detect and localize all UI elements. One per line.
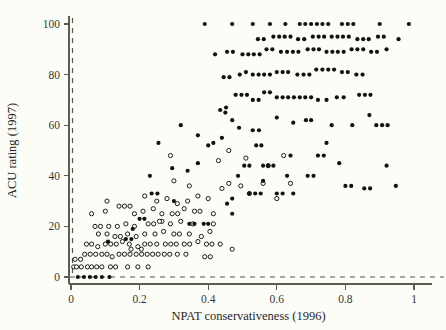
data-point-open [244,156,248,160]
data-point-filled [286,70,290,74]
data-point-filled [307,73,311,77]
data-point-filled [244,70,248,74]
data-point-filled [292,95,296,99]
scatter-plot-figure: 02040608010000.20.40.60.81 NPAT conserva… [0,0,446,330]
data-point-filled [251,73,255,77]
data-point-filled [355,37,359,41]
plot-canvas: 02040608010000.20.40.60.81 NPAT conserva… [0,0,446,330]
y-tick-label: 60 [49,119,61,131]
data-point-filled [275,70,279,74]
data-point-open [175,252,179,256]
data-point-open [227,148,231,152]
data-point-filled [192,222,196,226]
data-point-open [143,242,147,246]
data-point-filled [262,73,266,77]
data-point-filled [341,35,345,39]
data-point-filled [230,22,234,26]
data-point-filled [306,47,310,51]
axis-ticks [64,24,414,290]
data-point-open [177,232,181,236]
data-point-filled [385,123,389,127]
data-point-filled [275,191,279,195]
data-point-filled [251,128,255,132]
data-point-filled [202,222,206,226]
data-point-filled [264,47,268,51]
data-point-filled [350,123,354,127]
data-point-filled [317,47,321,51]
data-point-filled [262,90,266,94]
data-point-open [165,196,169,200]
data-point-filled [245,93,249,97]
x-tick-label: 0 [68,293,74,305]
data-point-filled [100,275,104,279]
data-point-open [220,186,224,190]
data-point-filled [283,35,287,39]
data-point-open [100,265,104,269]
data-point-filled [351,22,355,26]
data-point-open [146,222,150,226]
data-point-filled [382,35,386,39]
data-point-filled [291,121,295,125]
data-point-filled [322,35,326,39]
data-point-open [182,207,186,211]
data-point-filled [252,52,256,56]
y-tick-label: 20 [49,220,61,232]
data-point-filled [342,95,346,99]
data-point-filled [285,50,289,54]
data-point-filled [330,35,334,39]
data-point-filled [271,164,275,168]
data-point-filled [271,35,275,39]
data-point-filled [251,98,255,102]
data-point-filled [336,50,340,54]
data-point-filled [330,50,334,54]
data-point-filled [218,108,222,112]
data-point-open [103,209,107,213]
data-point-filled [316,153,320,157]
data-point-open [140,252,144,256]
data-point-filled [298,95,302,99]
data-point-open [83,252,87,256]
data-point-filled [326,67,330,71]
data-point-filled [239,93,243,97]
data-point-filled [311,35,315,39]
data-point-filled [309,22,313,26]
data-point-filled [303,22,307,26]
data-point-open [107,224,111,228]
data-point-filled [369,50,373,54]
data-point-filled [320,22,324,26]
axis-titles: NPAT conservativeness (1996)ACU rating (… [5,103,326,323]
data-point-filled [375,50,379,54]
data-point-filled [220,136,224,140]
data-point-open [141,209,145,213]
data-point-filled [259,191,263,195]
data-point-filled [384,47,388,51]
data-point-filled [360,73,364,77]
data-point-filled [311,174,315,178]
data-point-filled [281,95,285,99]
data-point-filled [107,275,111,279]
data-point-filled [179,123,183,127]
data-point-filled [281,70,285,74]
data-point-open [84,242,88,246]
data-point-open [184,252,188,256]
data-point-open [89,242,93,246]
data-point-open [139,247,143,251]
data-point-filled [138,217,142,221]
data-point-filled [337,161,341,165]
data-point-filled [237,126,241,130]
data-point-open [155,199,159,203]
data-point-open [187,184,191,188]
data-point-open [113,265,117,269]
data-point-filled [396,37,400,41]
data-point-open [132,212,136,216]
data-point-open [74,265,78,269]
data-points-open [72,148,293,269]
data-point-open [172,232,176,236]
data-point-filled [251,22,255,26]
data-point-open [275,196,279,200]
data-point-filled [302,37,306,41]
data-point-filled [150,191,154,195]
data-point-open [96,232,100,236]
data-point-open [182,242,186,246]
data-point-filled [324,98,328,102]
